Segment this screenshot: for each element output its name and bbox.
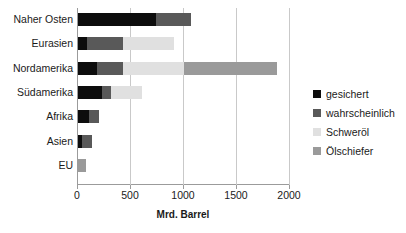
- stacked-bar-chart: Naher OstenEurasienNordamerikaSüdamerika…: [0, 0, 406, 233]
- gridline: [183, 8, 184, 185]
- legend-item: gesichert: [313, 84, 395, 103]
- bar-segment: [78, 86, 102, 99]
- legend-item: Schweröl: [313, 122, 395, 141]
- bar-segment: [78, 110, 89, 123]
- legend-swatch-icon: [313, 90, 321, 98]
- legend-label: wahrscheinlich: [326, 107, 395, 119]
- plot-area: [77, 8, 289, 185]
- legend-swatch-icon: [313, 147, 321, 155]
- chart-legend: gesichertwahrscheinlichSchwerölÖlschiefe…: [313, 84, 395, 160]
- category-label: EU: [0, 159, 73, 172]
- gridline: [289, 8, 290, 185]
- legend-swatch-icon: [313, 109, 321, 117]
- legend-label: Ölschiefer: [326, 145, 373, 157]
- bar-segment: [82, 135, 92, 148]
- x-tick-label: 0: [47, 189, 107, 201]
- category-label: Südamerika: [0, 86, 73, 99]
- legend-item: Ölschiefer: [313, 141, 395, 160]
- legend-item: wahrscheinlich: [313, 103, 395, 122]
- legend-label: gesichert: [326, 88, 369, 100]
- legend-swatch-icon: [313, 128, 321, 136]
- category-label: Naher Osten: [0, 13, 73, 26]
- category-label: Afrika: [0, 110, 73, 123]
- bar-segment: [156, 13, 191, 26]
- category-label: Eurasien: [0, 37, 73, 50]
- gridline: [236, 8, 237, 185]
- bar-segment: [89, 110, 99, 123]
- bar-segment: [87, 37, 123, 50]
- x-tick-label: 1500: [206, 189, 266, 201]
- x-tick-label: 1000: [153, 189, 213, 201]
- category-label: Asien: [0, 135, 73, 148]
- bar-segment: [123, 62, 184, 75]
- bar-segment: [184, 62, 277, 75]
- bar-segment: [78, 62, 97, 75]
- x-tick-label: 500: [100, 189, 160, 201]
- bar-segment: [123, 37, 174, 50]
- bar-segment: [97, 62, 123, 75]
- x-tick-label: 2000: [259, 189, 319, 201]
- x-axis-title: Mrd. Barrel: [77, 209, 289, 220]
- bar-segment: [78, 13, 156, 26]
- bar-segment: [78, 159, 86, 172]
- legend-label: Schweröl: [326, 126, 369, 138]
- category-label: Nordamerika: [0, 62, 73, 75]
- bar-segment: [78, 37, 87, 50]
- bar-segment: [111, 86, 142, 99]
- bar-segment: [102, 86, 111, 99]
